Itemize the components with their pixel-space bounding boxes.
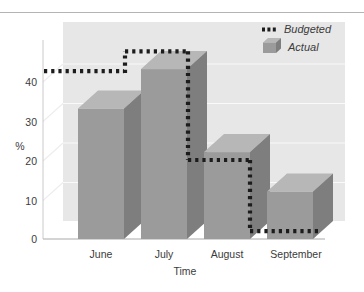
legend-label-actual: Actual	[287, 41, 319, 53]
y-tick-label-0: 0	[31, 233, 37, 245]
legend-label-budgeted: Budgeted	[284, 23, 332, 35]
legend-bar-swatch	[263, 38, 281, 53]
bar-front-face-june	[78, 109, 124, 239]
bar-group-september[interactable]	[267, 174, 333, 239]
y-tick-label-40: 40	[25, 76, 37, 88]
y-tick-label-10: 10	[25, 195, 37, 207]
x-tick-label-september: September	[270, 248, 322, 260]
bar-front-face-august	[204, 152, 250, 239]
header-divider-rule	[0, 12, 364, 13]
x-tick-label-june: June	[90, 248, 113, 260]
x-axis-title: Time	[174, 265, 197, 277]
chart-figure: #b8b8b8 #d8d8d8	[0, 0, 364, 292]
y-axis-title: %	[15, 140, 24, 152]
bar-chart-canvas: #b8b8b8 #d8d8d8	[0, 0, 364, 292]
x-axis-category-labels: June July August September	[90, 248, 323, 260]
y-axis-tick-labels: 0 10 20 30 40	[25, 76, 37, 245]
bar-group-june[interactable]	[78, 91, 144, 239]
plot-left-wall	[43, 22, 63, 239]
y-tick-label-20: 20	[25, 155, 37, 167]
x-tick-label-july: July	[155, 248, 174, 260]
y-tick-label-30: 30	[25, 116, 37, 128]
bar-group-august[interactable]	[204, 134, 270, 239]
bar-front-face-july	[141, 69, 187, 239]
bar-group-july[interactable]	[141, 51, 207, 239]
x-tick-label-august: August	[211, 248, 244, 260]
